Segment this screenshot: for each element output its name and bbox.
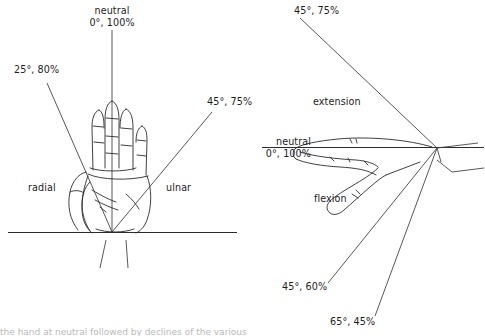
flexion-ray-45 — [328, 148, 437, 283]
flexion-ray-65 — [375, 148, 437, 316]
left-forearm-tick-lateral — [126, 240, 128, 268]
extension-ray — [300, 18, 437, 148]
radial-deviation-ray — [47, 83, 112, 232]
forearm-lower-line — [437, 160, 484, 172]
right-panel-drawing — [262, 18, 484, 316]
ulnar-deviation-value-label: 45°, 75% — [207, 96, 252, 108]
radial-side-label: radial — [28, 182, 56, 194]
flexion-65-value-label: 65°, 45% — [330, 316, 375, 328]
ulnar-side-label: ulnar — [166, 182, 191, 194]
palmar-hand-illustration — [69, 101, 151, 233]
wrist-range-of-motion-figure: neutral 0°, 100% 25°, 80% 45°, 75% radia… — [0, 0, 485, 336]
radial-deviation-value-label: 25°, 80% — [14, 64, 59, 76]
extension-value-label: 45°, 75% — [294, 5, 339, 17]
ulnar-deviation-ray — [112, 112, 212, 232]
extension-name-label: extension — [313, 96, 361, 108]
wrist-joint-line — [437, 148, 441, 162]
flexion-45-value-label: 45°, 60% — [282, 281, 327, 293]
right-neutral-label: neutral 0°, 100% — [249, 136, 311, 159]
figure-caption-clipped: the hand at neutral followed by declines… — [0, 327, 485, 336]
figure-drawing — [0, 0, 485, 336]
left-neutral-label: neutral 0°, 100% — [72, 5, 152, 28]
flexion-name-label: flexion — [314, 193, 347, 205]
left-forearm-tick-medial — [100, 240, 106, 268]
